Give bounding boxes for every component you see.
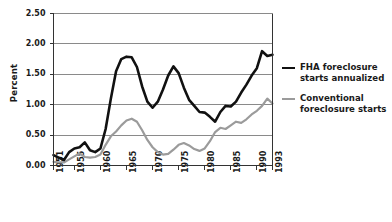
data-series-line <box>54 51 273 160</box>
legend-label-fha-line2: starts annualized <box>300 73 384 83</box>
legend-label-conventional-line2: foreclosure starts <box>300 104 386 114</box>
chart-legend: FHA foreclosure starts annualized Conven… <box>282 62 392 124</box>
data-series-layer <box>54 51 273 162</box>
legend-label-conventional-line1: Conventional <box>300 93 364 103</box>
x-tick-marks <box>54 166 273 170</box>
legend-label-conventional: Conventional foreclosure starts <box>300 93 386 115</box>
legend-label-fha-line1: FHA foreclosure <box>300 62 378 72</box>
data-series-line <box>54 99 273 163</box>
foreclosure-starts-chart: Percent 0.000.501.001.502.002.50 1951195… <box>0 0 392 222</box>
legend-line-icon-conventional <box>282 98 295 100</box>
legend-line-icon-fha <box>282 67 295 69</box>
legend-item-conventional: Conventional foreclosure starts <box>282 93 392 115</box>
legend-label-fha: FHA foreclosure starts annualized <box>300 62 384 84</box>
legend-item-fha: FHA foreclosure starts annualized <box>282 62 392 84</box>
